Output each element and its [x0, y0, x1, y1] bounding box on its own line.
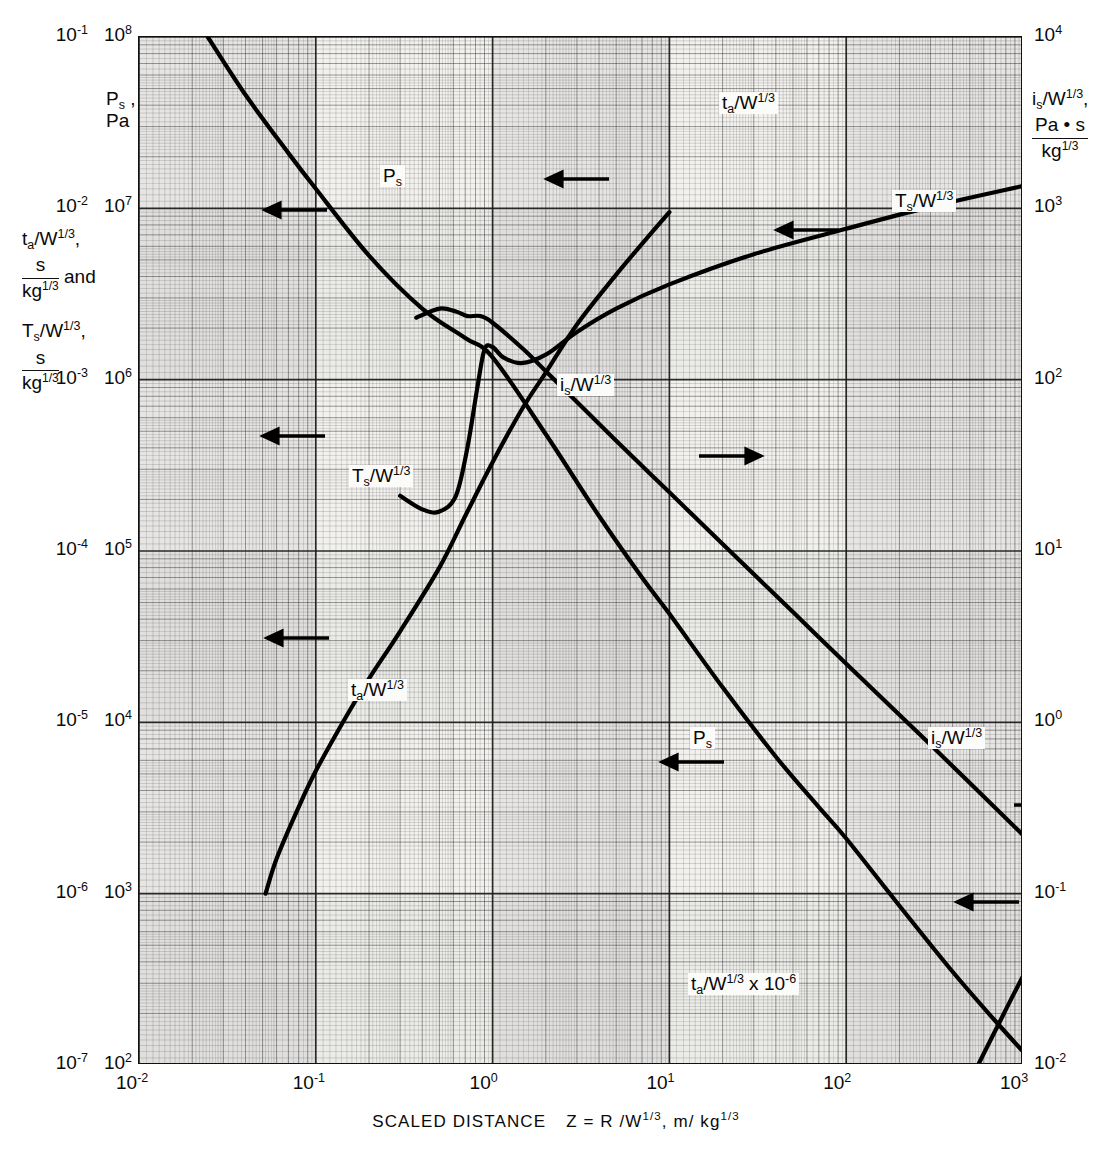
- curve-label-is-lower: is/W1/3: [928, 727, 985, 749]
- left-inner-tick-10e5: 105: [86, 539, 132, 558]
- x-axis-caption: SCALED DISTANCEZ = R /W1/3, m/ kg1/3: [0, 1112, 1112, 1132]
- right-tick-10e2: 102: [1034, 368, 1062, 387]
- x-tick-10e0: 100: [470, 1072, 498, 1094]
- curve-label-ts-upper: Ts/W1/3: [892, 190, 956, 212]
- curve-label-is-mid: is/W1/3: [557, 374, 614, 396]
- pointer-arrow-head: [957, 895, 972, 909]
- left-outer-tick-10e-2: 10-2: [0, 196, 88, 215]
- left-inner-tick-10e8: 108: [86, 25, 132, 44]
- pointer-arrow-head: [547, 172, 562, 186]
- x-tick-10e3: 103: [1000, 1072, 1028, 1094]
- curve-label-ta-upper: ta/W1/3: [719, 92, 778, 114]
- x-tick-10e-2: 10-2: [116, 1072, 148, 1094]
- x-tick-10e2: 102: [823, 1072, 851, 1094]
- pointer-arrow-head: [746, 449, 761, 463]
- right-axis-title: is/W1/3,Pa • skg1/3: [1032, 88, 1088, 162]
- pointer-arrow-head: [265, 203, 280, 217]
- x-tick-10e-1: 10-1: [293, 1072, 325, 1094]
- curve-i-s-w-1-3: [416, 308, 1022, 835]
- curve-label-ta-scaled: ta/W1/3 x 10-6: [688, 973, 799, 995]
- x-tick-10e1: 101: [646, 1072, 674, 1094]
- left-inner-tick-10e3: 103: [86, 882, 132, 901]
- left-inner-tick-10e2: 102: [86, 1053, 132, 1072]
- left-outer-axis-title: ta/W1/3,skg1/3 andTs/W1/3,skg1/3: [22, 228, 96, 394]
- left-inner-tick-10e4: 104: [86, 710, 132, 729]
- left-outer-tick-10e-7: 10-7: [0, 1053, 88, 1072]
- left-outer-tick-10e-4: 10-4: [0, 539, 88, 558]
- left-inner-axis-title: Ps ,Pa: [106, 88, 136, 133]
- curves-layer: [139, 37, 1022, 1064]
- pointer-arrow-head: [662, 755, 677, 769]
- pointer-arrow-head: [263, 429, 278, 443]
- right-tick-10e4: 104: [1034, 25, 1062, 44]
- left-outer-tick-10e-5: 10-5: [0, 710, 88, 729]
- curve-label-ps-upper: Ps: [380, 165, 405, 187]
- plot-area: [138, 36, 1022, 1064]
- pointer-arrow-head: [267, 631, 282, 645]
- left-outer-tick-10e-6: 10-6: [0, 882, 88, 901]
- right-tick-10e-2: 10-2: [1034, 1053, 1066, 1072]
- left-inner-tick-10e7: 107: [86, 196, 132, 215]
- curve-label-ps-lower: Ps: [690, 727, 715, 749]
- figure-root: 10-110-210-310-410-510-610-7 10810710610…: [0, 0, 1112, 1167]
- right-tick-10e3: 103: [1034, 196, 1062, 215]
- curve-label-ts-lower: Ts/W1/3: [349, 465, 413, 487]
- right-tick-10e-1: 10-1: [1034, 882, 1066, 901]
- pointer-arrow-head: [777, 223, 792, 237]
- right-tick-10e0: 100: [1034, 710, 1062, 729]
- right-tick-10e1: 101: [1034, 539, 1062, 558]
- curve-label-ta-lower: ta/W1/3: [348, 679, 407, 701]
- left-outer-tick-10e-1: 10-1: [0, 25, 88, 44]
